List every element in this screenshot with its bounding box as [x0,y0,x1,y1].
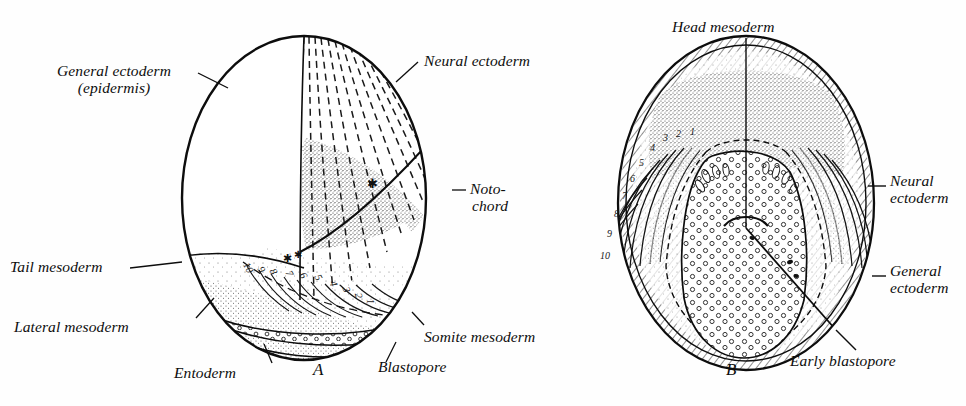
somite-number-b-9: 9 [607,228,612,239]
somite-number-b-4: 4 [650,142,655,153]
label-lateral-mesoderm: Lateral mesoderm [14,318,129,335]
panel-letter-b: B [726,360,736,380]
leader-early-blastopore-outer [836,330,856,350]
label-general-ectoderm: General ectoderm (epidermis) [28,62,200,97]
label-head-mesoderm: Head mesoderm [672,18,774,35]
somite-number-b-8: 8 [614,208,619,219]
label-general-ectoderm-line2: (epidermis) [28,79,200,96]
label-neural-ectoderm-b-line1: Neural [890,172,966,189]
label-general-ectoderm-b-line1: General [890,262,966,279]
label-general-ectoderm-b-line2: ectoderm [890,279,966,296]
somite-number-b-7: 7 [622,190,627,201]
leader-neural-ectoderm [396,62,418,82]
svg-text:✱: ✱ [294,249,302,260]
panel-letter-a: A [313,360,323,380]
svg-text:✱: ✱ [283,252,292,264]
blastopore-notch [384,330,408,335]
label-general-ectoderm-b: General ectoderm [890,262,966,297]
label-general-ectoderm-line1: General ectoderm [28,62,200,79]
label-neural-ectoderm-b: Neural ectoderm [890,172,966,207]
label-somite-mesoderm: Somite mesoderm [424,328,535,345]
svg-text:✱: ✱ [367,176,378,191]
label-notochord: Noto- chord [470,180,550,215]
somite-number-b-3: 3 [663,132,668,143]
somite-number-b-10: 10 [600,250,610,261]
somite-number-b-1: 1 [690,126,695,137]
somite-number-b-2: 2 [676,128,681,139]
label-neural-ectoderm-a: Neural ectoderm [424,52,530,69]
somite-number-b-5: 5 [639,157,644,168]
label-tail-mesoderm: Tail mesoderm [10,258,102,275]
somite-number-b-6: 6 [630,173,635,184]
leader-somite-mesoderm [412,312,424,325]
label-notochord-line1: Noto- [470,180,550,197]
panel-b-drawing [594,36,886,370]
label-blastopore: Blastopore [378,358,446,375]
label-neural-ectoderm-b-line2: ectoderm [890,189,966,206]
label-notochord-line2: chord [470,197,550,214]
label-entoderm: Entoderm [174,364,236,381]
label-early-blastopore: Early blastopore [790,352,896,369]
leader-lateral-mesoderm [196,298,214,318]
leader-tail-mesoderm [130,262,182,268]
embryology-fate-map-figure: ✱ ✱ ✱ [0,0,966,406]
